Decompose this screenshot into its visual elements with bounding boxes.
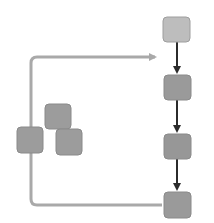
chain-node-1	[163, 17, 190, 42]
loop-node	[17, 127, 43, 153]
chain-node-2	[164, 75, 191, 100]
flow-diagram	[0, 0, 214, 223]
cluster-node-1	[45, 104, 71, 129]
feedback-loop-line	[31, 57, 162, 205]
chain-node-3	[164, 134, 191, 159]
cluster-node-2	[56, 129, 82, 155]
chain-node-4	[164, 192, 191, 218]
